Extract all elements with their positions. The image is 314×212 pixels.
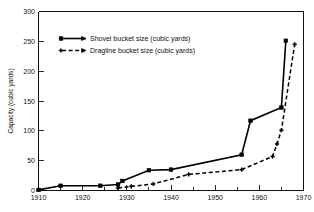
legend-label-shovel: Shovel bucket size (cubic yards) xyxy=(90,35,190,43)
capacity-line-chart: 300 250 200 150 100 50 0 Capacity (cubic… xyxy=(0,0,314,212)
data-point-marker xyxy=(59,184,63,188)
data-point-marker xyxy=(249,119,253,123)
data-point-marker xyxy=(116,183,120,187)
x-tick-label: 1970 xyxy=(296,194,312,201)
x-tick-label: 1920 xyxy=(75,194,91,201)
data-point-marker xyxy=(121,179,125,183)
y-tick-label: 300 xyxy=(23,8,35,15)
data-point-marker xyxy=(169,168,173,172)
data-point-marker xyxy=(147,168,151,172)
x-tick-label: 1960 xyxy=(252,194,268,201)
y-tick-label: 100 xyxy=(23,127,35,134)
data-point-marker xyxy=(99,184,103,188)
x-tick-label: 1950 xyxy=(207,194,223,201)
data-point-marker xyxy=(280,106,284,110)
y-tick-label: 50 xyxy=(27,157,35,164)
y-tick-label: 250 xyxy=(23,38,35,45)
legend-square-marker xyxy=(59,37,63,41)
data-point-marker xyxy=(240,153,244,157)
legend-label-dragline: Dragline bucket size (cubic yards) xyxy=(90,47,195,55)
x-tick-label: 1910 xyxy=(31,194,47,201)
x-tick-label: 1930 xyxy=(119,194,135,201)
chart-figure: 300 250 200 150 100 50 0 Capacity (cubic… xyxy=(0,0,314,212)
data-point-marker xyxy=(284,39,288,43)
y-axis-title: Capacity (cubic yards) xyxy=(7,68,15,133)
data-point-marker xyxy=(37,188,41,192)
y-tick-label: 150 xyxy=(23,98,35,105)
x-tick-label: 1940 xyxy=(163,194,179,201)
y-tick-label: 200 xyxy=(23,68,35,75)
chart-background xyxy=(0,0,314,212)
